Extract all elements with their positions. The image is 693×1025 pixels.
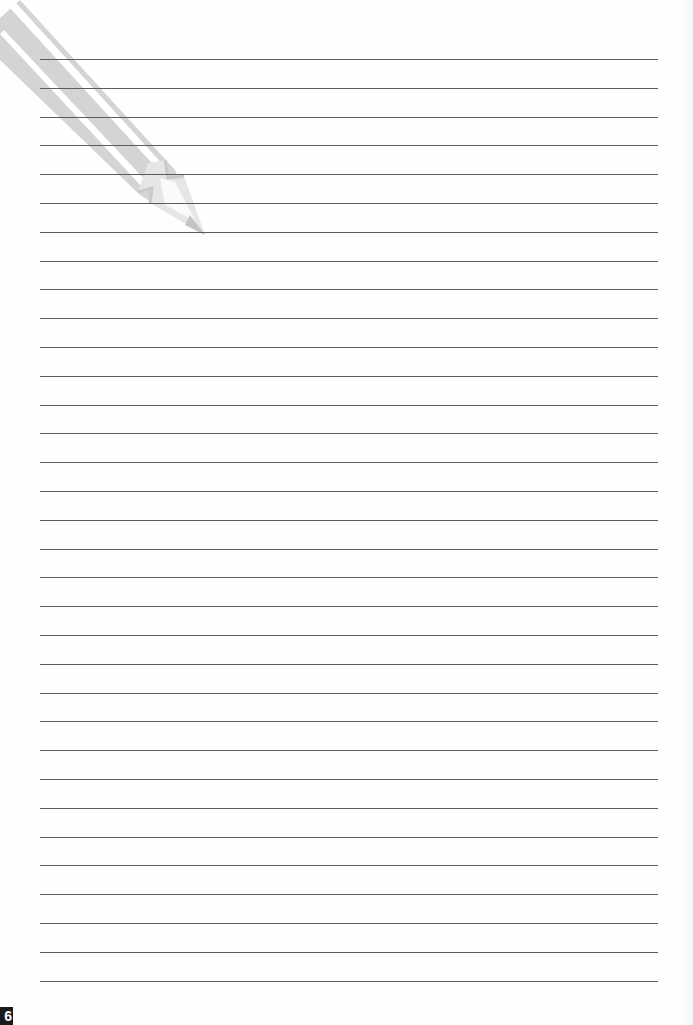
ruled-line <box>40 865 658 866</box>
ruled-line <box>40 606 658 607</box>
ruled-line <box>40 635 658 636</box>
ruled-line <box>40 174 658 175</box>
ruled-line <box>40 779 658 780</box>
ruled-line <box>40 347 658 348</box>
ruled-line <box>40 289 658 290</box>
ruled-line <box>40 405 658 406</box>
ruled-line <box>40 318 658 319</box>
ruled-line <box>40 117 658 118</box>
ruled-line <box>40 433 658 434</box>
ruled-line <box>40 232 658 233</box>
ruled-line <box>40 923 658 924</box>
ruled-line <box>40 261 658 262</box>
ruled-line <box>40 750 658 751</box>
ruled-line <box>40 520 658 521</box>
ruled-line <box>40 952 658 953</box>
ruled-line <box>40 837 658 838</box>
ruled-line <box>40 894 658 895</box>
ruled-line <box>40 88 658 89</box>
page-edge-shadow <box>679 0 693 1025</box>
ruled-line <box>40 462 658 463</box>
notebook-page: 6 <box>0 0 693 1025</box>
ruled-line <box>40 664 658 665</box>
ruled-lines <box>40 0 658 1025</box>
page-number-tab: 6 <box>0 1007 13 1025</box>
ruled-line <box>40 376 658 377</box>
ruled-line <box>40 981 658 982</box>
ruled-line <box>40 491 658 492</box>
ruled-line <box>40 59 658 60</box>
ruled-line <box>40 549 658 550</box>
ruled-line <box>40 721 658 722</box>
ruled-line <box>40 577 658 578</box>
ruled-line <box>40 203 658 204</box>
ruled-line <box>40 145 658 146</box>
ruled-line <box>40 808 658 809</box>
ruled-line <box>40 693 658 694</box>
